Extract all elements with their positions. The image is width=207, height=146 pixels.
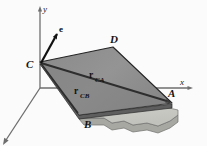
x-axis-arrowhead bbox=[188, 86, 194, 90]
vector-r-ca-sublabel: CA bbox=[95, 76, 105, 84]
z-axis-line bbox=[6, 88, 40, 140]
z-axis-arrowhead bbox=[3, 138, 9, 145]
point-label-d: D bbox=[109, 33, 118, 45]
point-label-c: C bbox=[26, 58, 34, 70]
figure-canvas: y x C D A B e r CA r CB bbox=[0, 0, 207, 146]
y-axis-arrowhead bbox=[38, 6, 42, 12]
point-label-b: B bbox=[83, 118, 91, 130]
point-label-a: A bbox=[167, 87, 175, 99]
x-axis-label: x bbox=[179, 77, 184, 87]
unit-vector-e-label: e bbox=[59, 24, 63, 34]
vector-r-cb-sublabel: CB bbox=[80, 92, 90, 100]
mechanics-figure: y x C D A B e r CA r CB bbox=[0, 0, 207, 146]
y-axis-label: y bbox=[42, 4, 47, 14]
